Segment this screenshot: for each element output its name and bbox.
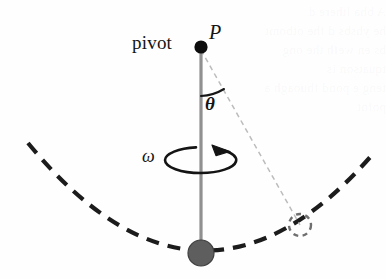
rotation-arrowhead [212,145,230,156]
omega-label: ω [142,147,155,165]
pivot-label: pivot [132,33,172,52]
pendulum-diagram-canvas [0,0,386,279]
pivot-dot [194,40,207,53]
displaced-string-dashed-line [201,50,300,225]
theta-label: θ [205,94,215,113]
conical-pendulum-figure: A bha lthere d he yhsbs d fhe otbomt bs … [0,0,386,279]
point-p-label: P [209,22,221,42]
pendulum-bob [188,240,214,266]
